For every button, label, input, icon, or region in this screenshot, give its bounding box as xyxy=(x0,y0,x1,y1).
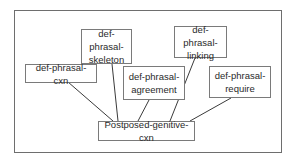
node-def-phrasal-skeleton: def-phrasal-skeleton xyxy=(81,29,132,64)
edge-skeleton xyxy=(112,64,118,121)
node-def-phrasal-cxn: def-phrasal-cxn xyxy=(25,64,97,83)
node-def-phrasal-agreement: def-phrasal-agreement xyxy=(123,66,185,100)
node-label: def-phrasal-require xyxy=(213,69,267,95)
node-def-phrasal-require: def-phrasal-require xyxy=(209,66,271,98)
node-label: def-phrasal-cxn xyxy=(29,61,93,87)
node-postposed-genitive-cxn: Postposed-genitive-cxn xyxy=(98,121,195,141)
edge-require xyxy=(190,98,231,121)
edge-cxn xyxy=(68,82,113,121)
node-label: Postposed-genitive-cxn xyxy=(102,118,191,144)
node-label: def-phrasal-skeleton xyxy=(85,27,128,66)
node-def-phrasal-linking: def-phrasal-linking xyxy=(174,26,227,58)
node-label: def-phrasal-linking xyxy=(178,23,223,62)
node-label: def-phrasal-agreement xyxy=(127,70,181,96)
